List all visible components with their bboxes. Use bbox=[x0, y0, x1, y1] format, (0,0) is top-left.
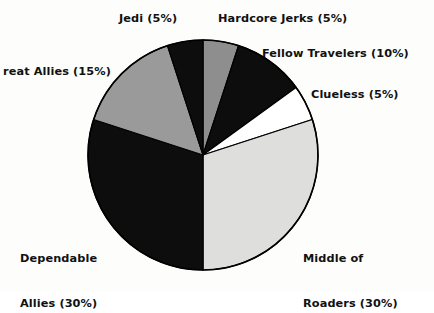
slice-label-dependable-allies-line1: Dependable bbox=[20, 251, 97, 266]
slice-label-hardcore-jerks: Hardcore Jerks (5%) bbox=[218, 12, 347, 26]
slice-label-middle-of-roaders: Middle of Roaders (30%) bbox=[303, 221, 398, 313]
slice-label-dependable-allies-line2: Allies (30%) bbox=[20, 296, 97, 311]
slice-label-clueless: Clueless (5%) bbox=[311, 88, 399, 102]
slice-label-great-allies: reat Allies (15%) bbox=[3, 65, 111, 79]
pie-slice-group bbox=[88, 40, 318, 270]
slice-label-middle-of-roaders-line2: Roaders (30%) bbox=[303, 296, 398, 311]
slice-label-fellow-travelers: Fellow Travelers (10%) bbox=[262, 47, 409, 61]
slice-label-jedi: Jedi (5%) bbox=[119, 12, 177, 26]
slice-label-middle-of-roaders-line1: Middle of bbox=[303, 251, 398, 266]
slice-label-dependable-allies: Dependable Allies (30%) bbox=[20, 221, 97, 313]
